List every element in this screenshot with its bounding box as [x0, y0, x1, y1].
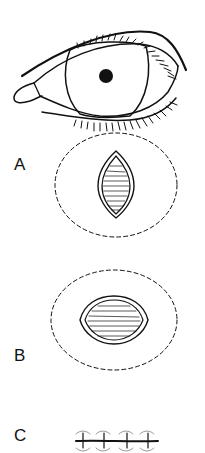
panel-c-drawing	[76, 431, 158, 451]
panel-label-b: B	[14, 347, 25, 364]
panel-label-a: A	[14, 156, 25, 173]
panel-label-c: C	[14, 427, 26, 444]
panel-a-drawing	[55, 133, 177, 237]
panel-b-drawing	[51, 270, 177, 370]
eye-wound-closure-illustration	[0, 0, 205, 453]
eye-drawing	[14, 32, 186, 131]
